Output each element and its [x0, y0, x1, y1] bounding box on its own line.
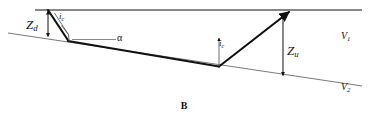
label-depth-down: Zd [26, 18, 38, 33]
figure-caption: B [0, 100, 368, 111]
velocity-interface-line [8, 33, 362, 86]
label-critical-angle-left: ic [59, 12, 64, 22]
label-velocity-upper: V1 [341, 31, 351, 43]
seismic-refraction-diagram: Zd ic α ic Zu V1 V2 B [0, 0, 368, 123]
upgoing-ray [219, 12, 289, 67]
refracted-head-wave-ray [68, 41, 219, 67]
label-velocity-lower: V2 [341, 82, 351, 94]
label-dip-angle: α [117, 33, 122, 43]
label-depth-up: Zu [287, 44, 299, 59]
label-critical-angle-right: ic [219, 39, 224, 49]
